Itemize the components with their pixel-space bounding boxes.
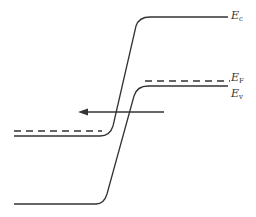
valence-band-edge bbox=[14, 86, 228, 204]
band-diagram bbox=[0, 0, 256, 217]
conduction-band-edge bbox=[14, 17, 228, 136]
arrow-head-icon bbox=[78, 109, 88, 116]
label-ec: Ec bbox=[231, 10, 243, 23]
label-ef: EF bbox=[231, 72, 244, 85]
label-ev: Ev bbox=[231, 88, 243, 101]
